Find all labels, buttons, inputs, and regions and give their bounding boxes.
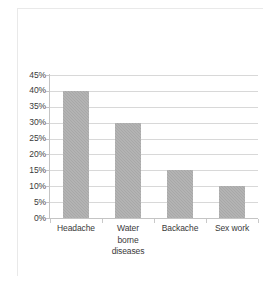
bar [115, 123, 141, 218]
x-axis-category-label-line: diseases [102, 246, 154, 258]
y-axis-tick-label: 5% [16, 198, 46, 207]
y-axis-tick-label: 15% [16, 166, 46, 175]
y-axis-tick-label: 40% [16, 86, 46, 95]
y-axis-tick-label: 10% [16, 182, 46, 191]
y-axis-tick-labels: 45%40%35%30%25%20%15%10%5%0% [16, 69, 46, 219]
x-axis-category-label: Headache [50, 223, 102, 235]
bar [219, 186, 245, 218]
x-axis-tickmark [258, 219, 259, 223]
gridline [50, 75, 258, 76]
y-axis-tick-label: 25% [16, 134, 46, 143]
x-axis-category-label: Backache [154, 223, 206, 235]
x-axis-category-label: Sex work [206, 223, 258, 235]
y-axis-tick-label: 20% [16, 150, 46, 159]
x-axis-category-label-line: borne [102, 235, 154, 247]
bar [63, 91, 89, 218]
bar-chart-figure: 45%40%35%30%25%20%15%10%5%0% HeadacheWat… [0, 0, 266, 283]
x-axis-category-label-line: Backache [154, 223, 206, 235]
x-axis-category-label-line: Sex work [206, 223, 258, 235]
y-axis-tick-label: 45% [16, 71, 46, 80]
x-axis-category-label-line: Headache [50, 223, 102, 235]
x-axis-category-labels: HeadacheWaterbornediseasesBackacheSex wo… [50, 223, 258, 279]
x-axis-category-label: Waterbornediseases [102, 223, 154, 258]
y-axis-tick-label: 0% [16, 214, 46, 223]
x-axis-category-label-line: Water [102, 223, 154, 235]
y-axis-tick-label: 35% [16, 102, 46, 111]
y-axis-tick-label: 30% [16, 118, 46, 127]
plot-area [50, 75, 258, 218]
bar [167, 170, 193, 218]
chart-plot-wrapper: 45%40%35%30%25%20%15%10%5%0% HeadacheWat… [0, 0, 266, 283]
